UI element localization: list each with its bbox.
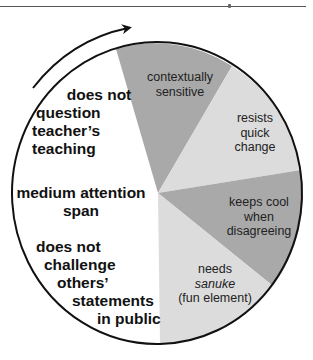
slice-label-resists-quick-change: resists quick change — [220, 111, 290, 155]
label-line: challenge — [44, 256, 144, 274]
label-line: disagreeing — [214, 224, 304, 239]
label-does-not-challenge-5: in public — [97, 310, 167, 328]
label-line: statements — [72, 292, 172, 310]
label-line: in public — [97, 310, 167, 328]
label-line: others’ — [57, 274, 157, 292]
label-does-not-challenge-2: challenge — [44, 256, 144, 274]
label-does-not-challenge-3: others’ — [57, 274, 157, 292]
slice-label-contextually-sensitive: contextually sensitive — [130, 70, 230, 99]
slice-label-needs-sanuke: needs sanuke (fun element) — [165, 262, 265, 306]
label-line: quick — [220, 126, 290, 141]
label-line: does not — [36, 238, 136, 256]
label-question: question — [36, 104, 136, 122]
label-line-italic: sanuke — [165, 277, 265, 292]
label-line: sensitive — [130, 85, 230, 100]
label-line: change — [220, 140, 290, 155]
label-line: teaching — [32, 140, 142, 158]
label-does-not-challenge-4: statements — [72, 292, 172, 310]
label-line: when — [214, 210, 304, 225]
label-line: needs — [165, 262, 265, 277]
label-line: medium attention — [16, 184, 146, 202]
label-line: span — [16, 202, 146, 220]
label-line: teacher’s — [32, 122, 142, 140]
label-teaching: teaching — [32, 140, 142, 158]
label-line: question — [36, 104, 136, 122]
label-does-not-challenge-1: does not — [36, 238, 136, 256]
label-line: contextually — [130, 70, 230, 85]
label-line: (fun element) — [165, 291, 265, 306]
slice-label-keeps-cool: keeps cool when disagreeing — [214, 195, 304, 239]
label-medium-attention-span: medium attention span — [16, 184, 146, 220]
label-line: keeps cool — [214, 195, 304, 210]
label-teachers: teacher’s — [32, 122, 142, 140]
label-line: resists — [220, 111, 290, 126]
